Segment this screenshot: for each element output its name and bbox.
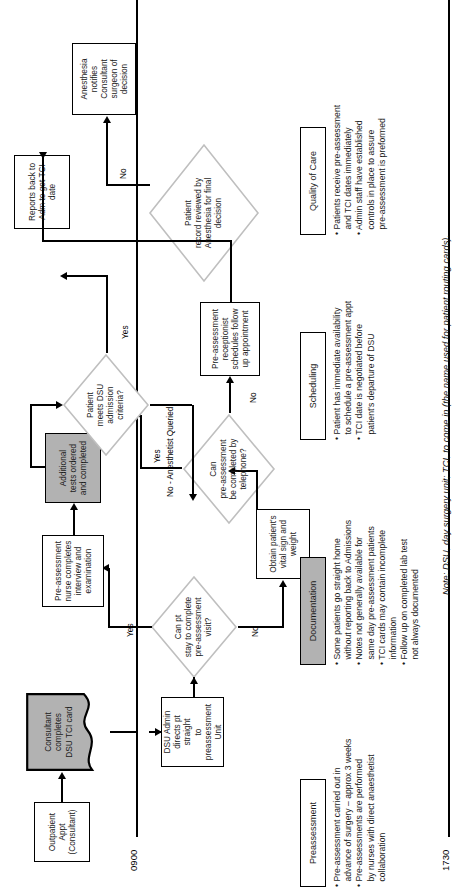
edge-tci-up (110, 731, 136, 733)
edge-phone-yes-v (140, 467, 182, 469)
panel-documentation-header: Documentation (300, 557, 326, 665)
panel-quality-of-care-title: Quality of Care (308, 151, 318, 211)
node-anesthesia-notifies-label: Anesthesia notifies Consultant surgeon o… (79, 47, 130, 111)
timeline-label-start: 0900 (128, 850, 139, 871)
node-consultant-tci-card: Consultant completes DSU TCI card (26, 693, 97, 771)
node-consultant-tci-card-label: Consultant completes DSU TCI card (43, 702, 79, 761)
node-record-reviewed: Patient record reviewed by Anesthesia fo… (148, 143, 260, 283)
node-nurse-interview-label: Pre-assessment nurse completes interview… (53, 541, 93, 602)
node-receptionist-schedules: Pre-assessment receptionist schedules fo… (200, 302, 260, 376)
node-can-preassess-phone-label: Can pre-assessment be completed by telep… (182, 413, 276, 525)
edge-phone-no (229, 379, 231, 413)
edge-label-criteria-yes: Yes (120, 325, 130, 339)
node-anesthesia-notifies: Anesthesia notifies Consultant surgeon o… (72, 43, 136, 115)
edge-label-phone-yes: Yes (152, 449, 162, 463)
arrowhead-nurse-to-tests (70, 503, 78, 510)
node-nurse-interview: Pre-assessment nurse completes interview… (42, 535, 104, 607)
figure-root: 0900 1730 Outpatient Appt (Consultant) C… (0, 0, 471, 895)
edge-label-phone-no: No (248, 392, 258, 403)
edge-canstay-no-h (282, 582, 284, 628)
edge-review-no-v (106, 184, 150, 186)
flowchart-canvas: 0900 1730 Outpatient Appt (Consultant) C… (0, 0, 471, 895)
panel-bullet: • Admin staff have established controls … (354, 7, 388, 235)
edge-criteria-yes-v (66, 275, 107, 277)
edge-canstay-no-v (238, 626, 284, 628)
arrowhead-review-no (103, 116, 111, 123)
panel-bullet: • Follow up on completed lab test not al… (399, 375, 421, 665)
arrowhead-criteria-yes (60, 272, 67, 280)
edge-canstay-yes-h (108, 568, 110, 628)
node-meets-dsu-criteria-label: Patient meets DSU admission criteria? (62, 353, 150, 457)
node-outpatient-appt: Outpatient Appt (Consultant) (34, 802, 90, 862)
edge-canstay-yes-v (108, 626, 152, 628)
edge-outpatient-to-tci (61, 778, 63, 802)
arrowhead-outpatient-to-tci (58, 772, 66, 779)
edge-tests-up (30, 466, 46, 468)
timeline-label-end: 1730 (440, 850, 451, 871)
edge-tests-to-criteria (30, 405, 32, 468)
panel-scheduling-header: Scheduling (300, 332, 326, 440)
node-meets-dsu-criteria: Patient meets DSU admission criteria? (62, 353, 150, 457)
panel-preassessment-title: Preassessment (308, 802, 318, 864)
edge-label-criteria-no: No - Anesthetist Queried (165, 407, 175, 497)
node-record-reviewed-label: Patient record reviewed by Anesthesia fo… (148, 143, 260, 283)
figure-note: Note: DSU, day surgery unit; TCI, to com… (440, 235, 451, 595)
panel-documentation-title: Documentation (308, 581, 318, 642)
panel-quality-of-care-body: • Patients receive pre-assessment and TC… (332, 7, 388, 235)
panel-quality-of-care: Quality of Care • Patients receive pre-a… (300, 0, 396, 235)
edge-review-no-h (106, 118, 108, 186)
edge-criteria-yes-h (106, 275, 108, 353)
node-can-pt-stay: Can pt stay to complete pre-assessment v… (150, 575, 238, 679)
node-can-pt-stay-label: Can pt stay to complete pre-assessment v… (150, 575, 238, 679)
node-dsu-admin-directs: DSU Admin directs pt straight to preasse… (161, 697, 224, 767)
panel-scheduling-title: Scheduling (308, 364, 318, 409)
panel-quality-of-care-header: Quality of Care (300, 127, 326, 235)
arrowhead-canstay-no (279, 580, 287, 587)
panel-bullet: • Patients receive pre-assessment and TC… (332, 7, 354, 235)
node-receptionist-schedules-label: Pre-assessment receptionist schedules fo… (210, 309, 250, 370)
edge-receptionist-return-to-reports (42, 152, 44, 242)
node-can-preassess-phone: Can pre-assessment be completed by telep… (182, 413, 276, 525)
node-dsu-admin-directs-label: DSU Admin directs pt straight to preasse… (162, 701, 223, 763)
edge-label-review-no: No (118, 168, 128, 179)
arrowhead-card-to-dsuadmin (155, 728, 162, 736)
panel-preassessment-header: Preassessment (300, 779, 326, 887)
node-outpatient-appt-label: Outpatient Appt (Consultant) (47, 809, 77, 854)
edge-criteria-no-v (150, 404, 192, 406)
arrowhead-phone-no (226, 376, 234, 383)
